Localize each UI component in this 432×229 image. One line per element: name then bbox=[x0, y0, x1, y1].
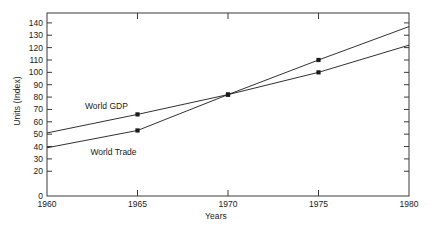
data-point-marker bbox=[316, 70, 320, 74]
y-tick-label: 50 bbox=[34, 129, 44, 139]
x-tick-label: 1970 bbox=[219, 199, 238, 209]
data-point-marker bbox=[135, 112, 139, 116]
y-tick-label: 30 bbox=[34, 154, 44, 164]
y-tick-label: 60 bbox=[34, 117, 44, 127]
data-point-marker bbox=[316, 58, 320, 62]
line-chart-plot: 02030405060708090100110120130140 1960196… bbox=[0, 0, 432, 229]
x-tick-label: 1980 bbox=[400, 199, 419, 209]
y-tick-label: 130 bbox=[29, 30, 43, 40]
series-lines bbox=[47, 27, 409, 148]
y-tick-label: 100 bbox=[29, 67, 43, 77]
x-tick-label: 1975 bbox=[309, 199, 328, 209]
y-tick-label: 20 bbox=[34, 166, 44, 176]
x-axis-ticks bbox=[138, 190, 319, 196]
y-tick-label: 70 bbox=[34, 104, 44, 114]
series-line bbox=[47, 45, 409, 133]
data-point-marker bbox=[135, 128, 139, 132]
chart-figure: Units (Index) Years 02030405060708090100… bbox=[0, 0, 432, 229]
y-tick-label: 40 bbox=[34, 142, 44, 152]
y-tick-label: 110 bbox=[29, 55, 43, 65]
series-label: World Trade bbox=[90, 147, 136, 157]
series-line bbox=[47, 27, 409, 148]
y-axis-ticks bbox=[47, 23, 52, 171]
x-tick-label: 1960 bbox=[38, 199, 57, 209]
y-tick-label: 140 bbox=[29, 18, 43, 28]
y-tick-label: 90 bbox=[34, 80, 44, 90]
y-axis-tick-labels: 02030405060708090100110120130140 bbox=[29, 18, 43, 201]
series-label: World GDP bbox=[85, 101, 128, 111]
x-tick-label: 1965 bbox=[128, 199, 147, 209]
y-tick-label: 120 bbox=[29, 43, 43, 53]
series-labels: World GDPWorld Trade bbox=[85, 101, 137, 157]
data-point-marker bbox=[226, 93, 230, 97]
x-axis-ticks-top bbox=[138, 13, 319, 19]
y-tick-label: 80 bbox=[34, 92, 44, 102]
x-axis-tick-labels: 19601965197019751980 bbox=[38, 199, 419, 209]
series-markers bbox=[135, 58, 320, 133]
